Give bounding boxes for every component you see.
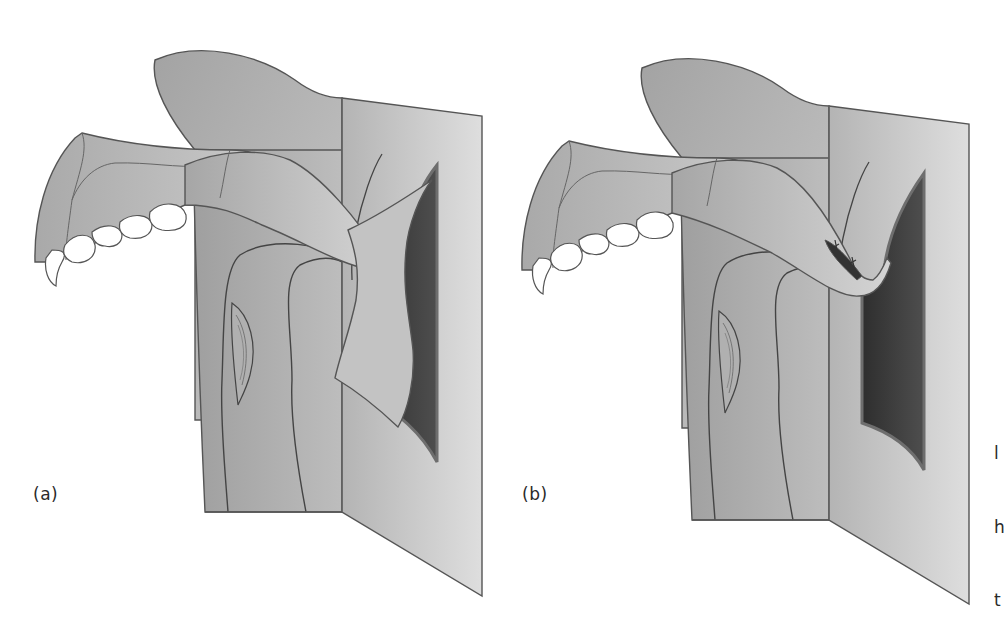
caption-fragment: h (994, 515, 1005, 540)
panel-b-illustration (522, 59, 969, 604)
caption-fragment: l (994, 441, 1005, 466)
cropped-caption: l h t e h s b (994, 392, 1005, 639)
panel-label-a: (a) (33, 484, 58, 504)
panel-label-b: (b) (522, 484, 548, 504)
surgical-figure (0, 0, 1005, 639)
panel-a-illustration (35, 51, 482, 596)
caption-fragment: t (994, 588, 1005, 613)
